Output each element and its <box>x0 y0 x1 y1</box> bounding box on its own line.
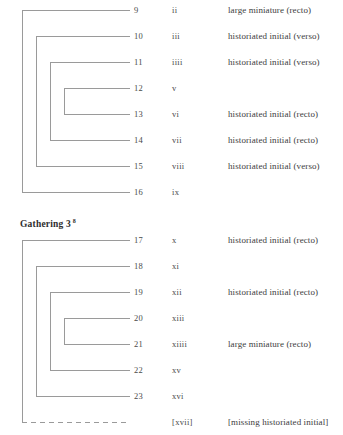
leaf-roman-numeral: xiiii <box>172 339 187 349</box>
leaf-folio-number: 11 <box>134 57 143 67</box>
leaf-roman-numeral: iii <box>172 31 180 41</box>
leaf-folio-number: 21 <box>134 339 143 349</box>
leaf-folio-number: 16 <box>134 187 143 197</box>
leaf-decoration-note: historiated initial (recto) <box>228 287 318 297</box>
leaf-roman-numeral: xi <box>172 261 179 271</box>
leaf-folio-number: 10 <box>134 31 143 41</box>
leaf-folio-number: 19 <box>134 287 143 297</box>
leaf-folio-number: 23 <box>134 391 143 401</box>
leaf-folio-number: 22 <box>134 365 143 375</box>
leaf-roman-numeral: iiii <box>172 57 183 67</box>
leaf-roman-numeral: x <box>172 235 177 245</box>
leaf-folio-number: 13 <box>134 109 143 119</box>
leaf-roman-numeral: viii <box>172 161 185 171</box>
leaf-folio-number: 9 <box>134 5 139 15</box>
leaf-decoration-note: historiated initial (recto) <box>228 235 318 245</box>
gathering-heading-label: Gathering 3 <box>20 219 71 229</box>
leaf-roman-numeral: xv <box>172 365 181 375</box>
leaf-folio-number: 15 <box>134 161 143 171</box>
leaf-roman-numeral: xvi <box>172 391 184 401</box>
gathering-heading-superscript: 8 <box>71 218 76 224</box>
leaf-decoration-note: historiated initial (verso) <box>228 57 320 67</box>
leaf-decoration-note: historiated initial (verso) <box>228 161 320 171</box>
gathering-heading: Gathering 3 8 <box>20 218 76 229</box>
leaf-decoration-note: historiated initial (verso) <box>228 31 320 41</box>
leaf-roman-numeral: xiii <box>172 313 185 323</box>
leaf-roman-numeral: ii <box>172 5 177 15</box>
leaf-folio-number: 17 <box>134 235 143 245</box>
leaf-roman-numeral: xii <box>172 287 182 297</box>
leaf-decoration-note: large miniature (recto) <box>228 5 311 15</box>
leaf-decoration-note: [missing historiated initial] <box>228 417 328 427</box>
collation-diagram: 9iilarge miniature (recto)10iiihistoriat… <box>0 0 343 435</box>
leaf-folio-number: 20 <box>134 313 143 323</box>
leaf-roman-numeral: [xvii] <box>172 417 193 427</box>
leaf-decoration-note: historiated initial (recto) <box>228 135 318 145</box>
leaf-folio-number: 12 <box>134 83 143 93</box>
leaf-roman-numeral: ix <box>172 187 179 197</box>
leaf-decoration-note: large miniature (recto) <box>228 339 311 349</box>
leaf-folio-number: 18 <box>134 261 143 271</box>
leaf-folio-number: 14 <box>134 135 143 145</box>
leaf-decoration-note: historiated initial (recto) <box>228 109 318 119</box>
leaf-roman-numeral: v <box>172 83 177 93</box>
leaf-roman-numeral: vii <box>172 135 182 145</box>
leaf-roman-numeral: vi <box>172 109 179 119</box>
